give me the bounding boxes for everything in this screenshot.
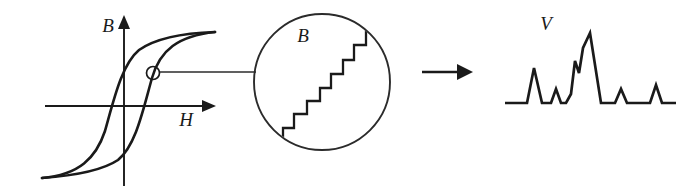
hysteresis-upper-branch bbox=[42, 32, 215, 178]
hysteresis-lower-branch bbox=[42, 32, 215, 178]
magnifier-circle-outline bbox=[254, 14, 390, 150]
barkhausen-staircase bbox=[283, 28, 374, 152]
b-axis-label: B bbox=[102, 15, 114, 36]
h-axis-label: H bbox=[178, 109, 194, 130]
barkhausen-staircase-group bbox=[283, 28, 374, 152]
magnifier-panel: B bbox=[254, 14, 390, 152]
voltage-signal-panel: V bbox=[505, 13, 676, 103]
process-arrow-head bbox=[457, 64, 473, 80]
voltage-label: V bbox=[540, 13, 554, 34]
magnifier-b-label: B bbox=[297, 25, 309, 46]
process-arrow bbox=[422, 64, 473, 80]
figure-canvas: B H B V bbox=[0, 0, 699, 196]
b-axis-arrowhead bbox=[118, 15, 130, 29]
voltage-trace bbox=[505, 33, 676, 103]
h-axis-arrowhead bbox=[202, 100, 216, 112]
hysteresis-panel: B H bbox=[42, 15, 216, 186]
barkhausen-figure: B H B V bbox=[0, 0, 699, 196]
